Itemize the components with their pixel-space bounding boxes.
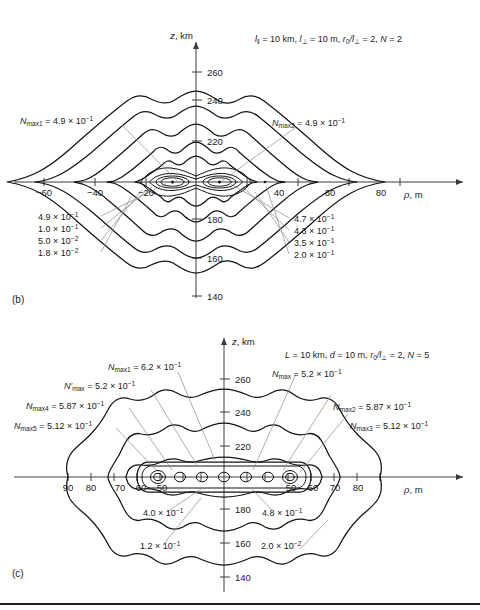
panel-b-maximum-dot-2 xyxy=(218,181,221,184)
panel-c-nmax2-label: Nmax2 = 5.87 × 10−1 xyxy=(333,401,412,413)
panel-c-xtick-label: 70 xyxy=(115,482,126,493)
panel-b-level-left-mant: 1.0 × 10 xyxy=(38,224,71,234)
panel-b-level-right: 4.3 × 10−1 xyxy=(294,225,335,236)
panel-c-xtick-label: 90 xyxy=(63,482,74,493)
panel-b-level-right-exp: −1 xyxy=(327,249,335,256)
panel-c-ytick-label: 240 xyxy=(235,407,251,418)
panel-c-nmax1-value: = 6.2 × 10 xyxy=(133,362,174,372)
panel-c-level-inner: 4.8 × 10−1 xyxy=(262,507,303,518)
figure-container: −60 −40 −20 40 60 80 260 240 220 180 160… xyxy=(0,0,480,610)
panel-c-level-inner-mant: 4.8 × 10 xyxy=(262,508,295,518)
panel-b-xtick-label: 80 xyxy=(376,187,387,198)
panel-c-nmax2-sub: max2 xyxy=(340,406,356,413)
panel-b-level-right-exp: −1 xyxy=(327,237,335,244)
panel-c-nmaxprime-sub: max xyxy=(72,385,85,392)
panel-b-nmax1-value: = 4.9 × 10 xyxy=(45,116,86,126)
panel-c-nmaxprime-label: N′max = 5.2 × 10−1 xyxy=(64,380,136,392)
panel-b-nmax2-exp: −1 xyxy=(338,117,346,124)
panel-c-level-inner-mant: 2.0 × 10 xyxy=(261,541,294,551)
panel-c-xtick-label: 50 xyxy=(157,482,168,493)
panel-b-xtick-label: 60 xyxy=(325,187,336,198)
panel-c-nmax3-exp: −1 xyxy=(421,420,429,427)
panel-b-x-axis-title: ρ, m xyxy=(403,189,423,200)
panel-c-ytick-label: 140 xyxy=(235,572,251,583)
panel-b-label: (b) xyxy=(12,294,24,305)
panel-c-nmax3-value: = 5.12 × 10 xyxy=(375,421,421,431)
panel-c-xtick-label: 60 xyxy=(136,482,147,493)
panel-b-level-right: 2.0 × 10−1 xyxy=(294,249,335,260)
panel-c-xtick-label: 80 xyxy=(353,482,364,493)
panel-b-level-right: 4.7 × 10−1 xyxy=(294,213,335,224)
panel-c-level-inner: 4.0 × 10−1 xyxy=(143,507,184,518)
panel-b-x-axis-unit: , m xyxy=(409,189,422,200)
panel-b-level-right-exp: −1 xyxy=(327,225,335,232)
panel-c-nmax4-value: = 5.87 × 10 xyxy=(51,401,97,411)
figure-svg: −60 −40 −20 40 60 80 260 240 220 180 160… xyxy=(0,0,480,610)
panel-c-nmax4-exp: −1 xyxy=(97,400,105,407)
panel-b-xtick-label: −20 xyxy=(138,187,154,198)
panel-c-param-N-val: = 5 xyxy=(417,350,430,360)
panel-c-nmax1-exp: −1 xyxy=(174,361,182,368)
panel-c-nmax4-label: Nmax4 = 5.87 × 10−1 xyxy=(26,400,105,412)
panel-c-param-L-val: = 10 km, xyxy=(293,350,328,360)
panel-b-nmax2-sub: max2 xyxy=(279,122,295,129)
panel-c-nmax5-sub: max5 xyxy=(21,425,37,432)
panel-c-nmax-exp: −1 xyxy=(334,368,342,375)
panel-c-nmax2-exp: −1 xyxy=(404,401,412,408)
panel-c-y-axis-title: z, km xyxy=(231,336,255,347)
panel-c-xtick-label: 80 xyxy=(86,482,97,493)
panel-c-level-inner: 1.2 × 10−1 xyxy=(140,540,181,551)
panel-c-level-inner-exp: −1 xyxy=(176,507,184,514)
panel-b-y-axis-title: z, km xyxy=(169,30,193,41)
panel-c-level-inner-exp: −1 xyxy=(295,507,303,514)
panel-b-level-right-mant: 3.5 × 10 xyxy=(294,238,327,248)
panel-c-level-inner-exp: −2 xyxy=(294,540,302,547)
panel-c-nmax-label: Nmax = 5.2 × 10−1 xyxy=(272,368,342,380)
panel-c-level-inner-mant: 4.0 × 10 xyxy=(143,508,176,518)
panel-c-nmax-value: = 5.2 × 10 xyxy=(293,369,334,379)
panel-b-ytick-label: 260 xyxy=(207,67,223,78)
panel-b-level-left-exp: −2 xyxy=(71,235,79,242)
panel-b-nmax2-value: = 4.9 × 10 xyxy=(297,118,338,128)
panel-b-nmax1-exp: −1 xyxy=(86,115,94,122)
panel-c-level-inner: 2.0 × 10−2 xyxy=(261,540,302,551)
panel-c-nmax4-sub: max4 xyxy=(33,405,49,412)
panel-c-nmax5-label: Nmax5 = 5.12 × 10−1 xyxy=(14,420,93,432)
panel-b-ytick-label: 240 xyxy=(207,95,223,106)
panel-c-level-inner-mant: 1.2 × 10 xyxy=(140,541,173,551)
panel-b-nmax1-label: Nmax1 = 4.9 × 10−1 xyxy=(20,115,94,127)
panel-c-xtick-label: 60 xyxy=(308,482,319,493)
panel-c-ytick-label: 260 xyxy=(235,374,251,385)
panel-b-axes xyxy=(14,42,463,298)
panel-b-param-l-par-val: = 10 km, xyxy=(262,34,297,44)
panel-b-parameters: l‖ = 10 km, l⊥ = 10 m, r0/l⊥ = 2, N = 2 xyxy=(255,34,402,45)
panel-c-nmax3-label: Nmax3 = 5.12 × 10−1 xyxy=(350,420,429,432)
panel-c-nmaxprime-exp: −1 xyxy=(128,380,136,387)
panel-b-level-left-exp: −2 xyxy=(71,247,79,254)
panel-b-y-arrow xyxy=(193,42,199,49)
panel-b-level-left: 1.8 × 10−2 xyxy=(38,247,79,258)
panel-b-level-right-mant: 4.3 × 10 xyxy=(294,226,327,236)
panel-c-y-arrow xyxy=(221,338,227,345)
panel-b: −60 −40 −20 40 60 80 260 240 220 180 160… xyxy=(7,30,463,305)
panel-c-ytick-label: 220 xyxy=(235,441,251,452)
panel-b-level-left-exp: −1 xyxy=(71,211,79,218)
panel-c-label: (c) xyxy=(12,568,24,579)
panel-b-xtick-label: 40 xyxy=(274,187,285,198)
panel-b-xtick-label: −40 xyxy=(87,187,103,198)
panel-b-ytick-label: 220 xyxy=(207,136,223,147)
panel-b-level-left: 4.9 × 10−1 xyxy=(38,211,79,222)
panel-b-level-right-exp: −1 xyxy=(327,213,335,220)
panel-c-parameters: L = 10 km, d = 10 m, r0/l⊥ = 2, N = 5 xyxy=(285,350,429,361)
panel-b-marker-right xyxy=(264,181,267,184)
panel-b-x-arrow xyxy=(456,179,463,185)
panel-b-level-left: 1.0 × 10−1 xyxy=(38,223,79,234)
panel-b-param-N-val: = 2 xyxy=(389,34,402,44)
panel-c-nmax1-label: Nmax1 = 6.2 × 10−1 xyxy=(108,361,182,373)
panel-c-param-d-val: = 10 m, xyxy=(337,350,367,360)
panel-b-level-right-mant: 4.7 × 10 xyxy=(294,214,327,224)
panel-c-nmax-sub: max xyxy=(279,373,292,380)
panel-c-param-r0-val2: = 2, xyxy=(390,350,405,360)
panel-b-ytick-label: 140 xyxy=(207,291,223,302)
panel-c-y-axis-unit: , km xyxy=(237,336,255,347)
